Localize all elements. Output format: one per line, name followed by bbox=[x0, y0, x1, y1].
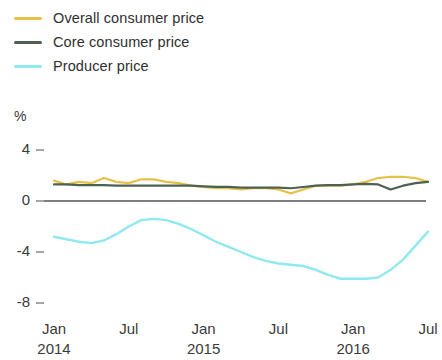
y-tick-label: 4 bbox=[0, 140, 30, 157]
series-line-core-consumer-price bbox=[54, 182, 428, 190]
x-tick-label-month: Jan bbox=[24, 320, 84, 337]
x-tick-label-year: 2015 bbox=[174, 340, 234, 357]
x-tick-label-month: Jul bbox=[248, 320, 308, 337]
chart-series-group bbox=[54, 177, 428, 279]
x-tick-label-year: 2014 bbox=[24, 340, 84, 357]
y-tick-label: 0 bbox=[0, 191, 30, 208]
x-tick-label-month: Jul bbox=[398, 320, 442, 337]
x-tick-label-month: Jan bbox=[174, 320, 234, 337]
x-tick-label-month: Jan bbox=[323, 320, 383, 337]
series-line-producer-price bbox=[54, 219, 428, 279]
x-tick-label-month: Jul bbox=[99, 320, 159, 337]
y-axis-ticks bbox=[36, 150, 44, 303]
x-tick-label-year: 2016 bbox=[323, 340, 383, 357]
y-tick-label: -8 bbox=[0, 293, 30, 310]
y-tick-label: -4 bbox=[0, 242, 30, 259]
